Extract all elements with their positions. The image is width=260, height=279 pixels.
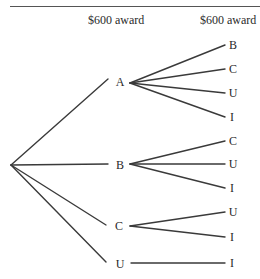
edge-root-B — [11, 164, 108, 165]
leaf-A-U: U — [229, 87, 238, 99]
leaf-A-I: I — [230, 111, 234, 123]
node-B: B — [116, 159, 124, 171]
leaf-B-C: C — [229, 135, 237, 147]
leaf-C-I: I — [230, 231, 234, 243]
edge-root-U — [11, 165, 106, 262]
leaf-U-I: I — [230, 257, 234, 269]
edge-C-U — [130, 212, 225, 226]
node-A: A — [116, 76, 125, 88]
node-U: U — [116, 258, 125, 270]
edge-root-A — [11, 79, 108, 165]
edge-root-C — [11, 165, 106, 225]
leaf-B-U: U — [229, 158, 238, 170]
edge-B-I — [130, 164, 225, 188]
leaf-B-I: I — [230, 182, 234, 194]
leaf-A-C: C — [229, 63, 237, 75]
edge-A-C — [130, 69, 225, 83]
decision-tree-lines — [0, 0, 260, 279]
leaf-A-B: B — [229, 39, 237, 51]
node-C: C — [115, 220, 123, 232]
edge-C-I — [130, 226, 225, 237]
edge-A-B — [130, 45, 225, 83]
edge-B-C — [130, 141, 225, 164]
leaf-C-U: U — [229, 206, 238, 218]
